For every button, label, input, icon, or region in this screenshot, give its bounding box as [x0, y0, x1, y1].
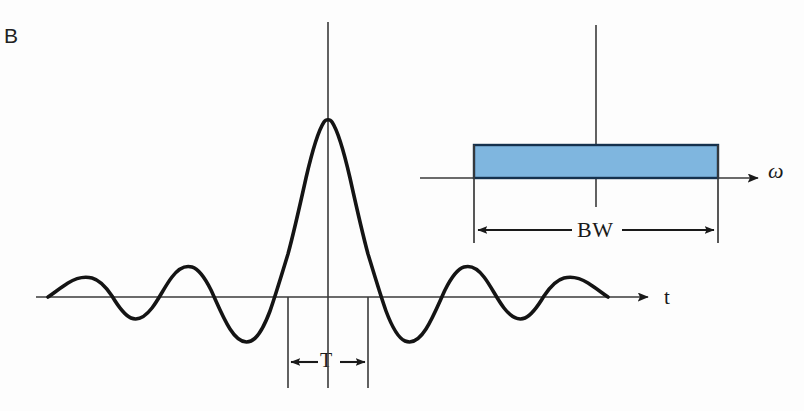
- frequency-domain-plot: [420, 25, 758, 243]
- figure-canvas: [0, 0, 804, 411]
- bandwidth-rectangle: [474, 145, 718, 178]
- time-domain-plot: [36, 22, 648, 388]
